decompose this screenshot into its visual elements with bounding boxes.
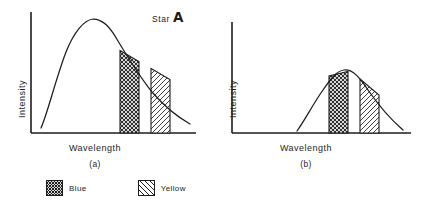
x-axis-title-star-b: Wavelength bbox=[211, 143, 401, 153]
star-label-a: StarA bbox=[152, 9, 184, 25]
legend-label-blue: Blue bbox=[69, 184, 87, 193]
y-axis-title-star-b: Intensity bbox=[228, 80, 238, 118]
blue-hatch-swatch-icon bbox=[46, 180, 63, 196]
x-axis-title-star-a: Wavelength bbox=[0, 143, 190, 153]
blue-band-star-b bbox=[329, 72, 348, 134]
yellow-hatch-swatch-icon bbox=[138, 180, 155, 196]
legend-entry-yellow: Yellow bbox=[138, 180, 186, 196]
y-axis-title-star-a: Intensity bbox=[17, 80, 27, 118]
legend-label-yellow: Yellow bbox=[161, 184, 186, 193]
panel-caption-a: (a) bbox=[0, 159, 190, 169]
figure-legend: Blue Yellow bbox=[46, 180, 186, 196]
star-spectra-figure: StarA Intensity Wavelength (a) bbox=[0, 0, 422, 208]
spectrum-curve-star-b bbox=[297, 70, 403, 131]
blue-band-star-a bbox=[120, 51, 139, 134]
star-word-a: Star bbox=[152, 14, 170, 24]
legend-entry-blue: Blue bbox=[46, 180, 87, 196]
panel-caption-b: (b) bbox=[211, 159, 401, 169]
yellow-band-star-b bbox=[360, 79, 379, 133]
star-id-a: A bbox=[173, 9, 184, 25]
